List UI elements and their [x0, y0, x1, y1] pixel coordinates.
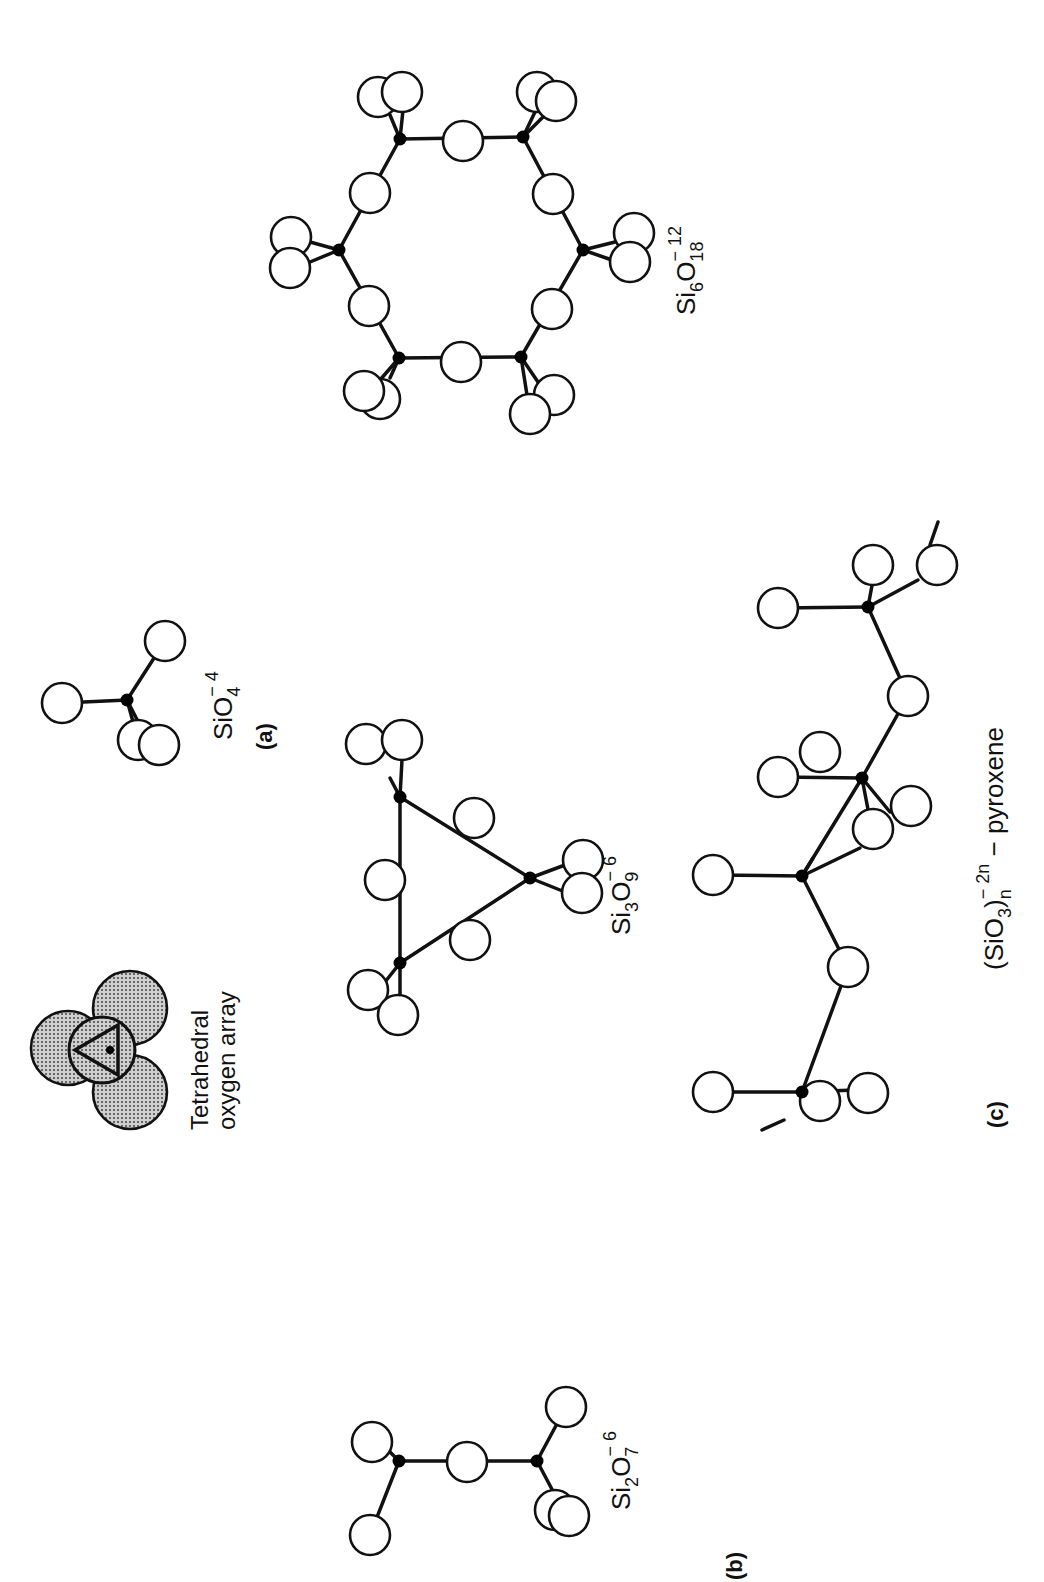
oxygen-atom: [532, 289, 572, 329]
svg-text:Si3O9− 6: Si3O9− 6: [600, 856, 642, 935]
tetrahedral-label-line2: oxygen array: [213, 991, 240, 1130]
oxygen-atom: [610, 242, 650, 282]
si6o18-charge: − 12: [665, 226, 685, 262]
si2o7-o: O: [606, 1457, 636, 1477]
oxygen-atom: [758, 757, 798, 797]
tetrahedral-label-line1: Tetrahedral: [186, 1010, 213, 1130]
oxygen-atom: [853, 809, 893, 849]
silicon-atom: [531, 1455, 544, 1468]
silicon-atom: [333, 244, 346, 257]
si2o7-si: Si: [606, 1487, 636, 1510]
pyroxene-base: (SiO: [979, 918, 1009, 970]
silicon-atom: [517, 131, 530, 144]
oxygen-atom: [378, 995, 418, 1035]
sio4-monomer: [42, 621, 185, 765]
tetrahedral-oxygen-array: [31, 971, 167, 1129]
silicon-atom: [796, 1086, 809, 1099]
oxygen-atom: [562, 873, 602, 913]
label-si2o7: Si2O7− 6: [600, 1431, 642, 1510]
si6o18-sub1: 6: [687, 282, 707, 292]
silicon-atom: [106, 1046, 114, 1054]
pyroxene-sub2: n: [995, 889, 1015, 899]
oxygen-atom: [344, 371, 384, 411]
silicon-atom: [121, 694, 134, 707]
oxygen-atom: [454, 798, 494, 838]
si3o9-ring: [346, 720, 603, 1035]
silicon-atom: [862, 601, 875, 614]
si6o18-sub2: 18: [687, 242, 707, 262]
si3o9-sub1: 3: [622, 902, 642, 912]
oxygen-atom: [536, 81, 576, 121]
oxygen-atom: [549, 1496, 589, 1536]
label-pyroxene: (SiO3)n− 2n − pyroxene: [973, 727, 1015, 970]
label-tetrahedral: Tetrahedral oxygen array: [186, 991, 240, 1130]
panel-label-c: (c): [983, 1101, 1008, 1128]
sio4-charge: − 4: [202, 671, 222, 697]
oxygen-atom: [510, 394, 550, 434]
oxygen-atom: [693, 1072, 733, 1112]
silicon-atom: [394, 791, 407, 804]
sio4-base: SiO: [208, 697, 238, 740]
silicon-atom: [394, 957, 407, 970]
oxygen-atom: [139, 725, 179, 765]
si2o7-sub2: 7: [622, 1447, 642, 1457]
sio4-sub: 4: [224, 687, 244, 697]
oxygen-atom: [758, 588, 798, 628]
oxygen-atom: [447, 1442, 487, 1482]
svg-text:Si6O18− 12: Si6O18− 12: [665, 226, 707, 315]
si3o9-charge: − 6: [600, 856, 620, 882]
panel-label-b: (b): [722, 1552, 747, 1580]
label-si6o18: Si6O18− 12: [665, 226, 707, 315]
svg-text:SiO4− 4: SiO4− 4: [202, 671, 244, 740]
silicon-atom: [515, 351, 528, 364]
si2o7-charge: − 6: [600, 1431, 620, 1457]
oxygen-atom: [441, 342, 481, 382]
oxygen-atom: [350, 173, 390, 213]
top-oxygen-sphere: [69, 1017, 135, 1083]
pyroxene-chain: [693, 522, 957, 1130]
silicon-atom: [856, 772, 869, 785]
oxygen-atom: [546, 1387, 586, 1427]
oxygen-atom: [270, 248, 310, 288]
oxygen-atom: [888, 676, 928, 716]
si3o9-sub2: 9: [622, 872, 642, 882]
oxygen-atom: [828, 947, 868, 987]
label-sio4: SiO4− 4: [202, 671, 244, 740]
oxygen-atom: [848, 1073, 888, 1113]
si6o18-o: O: [671, 262, 701, 282]
pyroxene-charge: − 2n: [973, 864, 993, 900]
oxygen-atom: [693, 855, 733, 895]
pyroxene-paren: ): [979, 899, 1009, 908]
oxygen-atom: [533, 174, 573, 214]
si3o9-si: Si: [606, 912, 636, 935]
svg-text:Si2O7− 6: Si2O7− 6: [600, 1431, 642, 1510]
silicon-atom: [393, 352, 406, 365]
silicon-atom: [394, 133, 407, 146]
oxygen-atom: [800, 732, 840, 772]
pyroxene-sub1: 3: [995, 908, 1015, 918]
oxygen-atom: [917, 545, 957, 585]
oxygen-atom: [443, 121, 483, 161]
svg-text:(SiO3)n− 2n − pyroxene: (SiO3)n− 2n − pyroxene: [973, 727, 1015, 970]
label-si3o9: Si3O9− 6: [600, 856, 642, 935]
oxygen-atom: [352, 1422, 392, 1462]
oxygen-atom: [346, 724, 386, 764]
oxygen-atom: [145, 621, 185, 661]
silicon-atom: [796, 870, 809, 883]
oxygen-atom: [42, 683, 82, 723]
si6o18-si: Si: [671, 292, 701, 315]
silicon-atom: [577, 244, 590, 257]
oxygen-atom: [382, 72, 422, 112]
oxygen-atom: [349, 286, 389, 326]
si2o7-dimer: [350, 1387, 589, 1555]
si3o9-o: O: [606, 882, 636, 902]
si6o18-ring: [270, 72, 654, 434]
silicon-atom: [524, 872, 537, 885]
si2o7-sub1: 2: [622, 1477, 642, 1487]
oxygen-atom: [891, 786, 931, 826]
oxygen-atom: [450, 920, 490, 960]
oxygen-atom: [365, 860, 405, 900]
silicon-atom: [393, 1455, 406, 1468]
oxygen-atom: [853, 545, 893, 585]
oxygen-atom: [350, 1515, 390, 1555]
